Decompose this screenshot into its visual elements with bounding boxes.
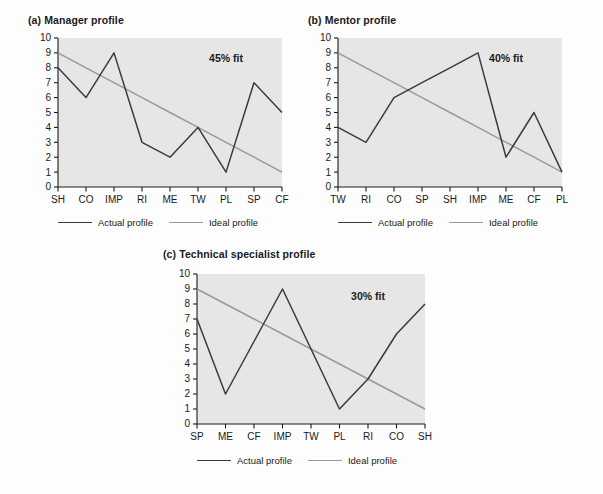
y-tick-label: 2 [325, 152, 331, 163]
legend-label-actual: Actual profile [237, 456, 292, 466]
chart-panel-c: (c) Technical specialist profile 0123456… [163, 248, 438, 448]
legend-line-actual-icon [338, 222, 372, 223]
chart-legend-c: Actual profile Ideal profile [197, 456, 397, 466]
x-tick-label: TW [303, 431, 319, 442]
x-tick-label: PL [333, 431, 346, 442]
y-tick-label: 10 [320, 32, 332, 43]
legend-entry-ideal-c: Ideal profile [308, 456, 397, 466]
x-tick-label: SP [415, 194, 429, 205]
chart-panel-a: (a) Manager profile 012345678910SHCOIMPR… [28, 14, 293, 210]
y-tick-label: 5 [45, 107, 51, 118]
x-tick-label: ME [163, 194, 178, 205]
x-tick-label: RI [361, 194, 371, 205]
x-tick-label: TW [190, 194, 206, 205]
y-tick-label: 3 [45, 137, 51, 148]
x-tick-label: CO [79, 194, 94, 205]
y-tick-label: 1 [325, 167, 331, 178]
y-tick-label: 6 [184, 328, 190, 339]
chart-title-c: (c) Technical specialist profile [163, 248, 438, 260]
legend-line-ideal-icon [169, 222, 203, 223]
x-tick-label: RI [363, 431, 373, 442]
legend-entry-actual-c: Actual profile [197, 456, 292, 466]
x-tick-label: PL [220, 194, 233, 205]
figure-canvas: (a) Manager profile 012345678910SHCOIMPR… [0, 0, 603, 494]
x-tick-label: IMP [105, 194, 123, 205]
y-tick-label: 0 [325, 181, 331, 192]
y-tick-label: 9 [184, 283, 190, 294]
x-tick-label: CF [527, 194, 540, 205]
y-tick-label: 10 [179, 268, 191, 279]
x-tick-label: PL [556, 194, 569, 205]
chart-svg-c: 012345678910SPMECFIMPTWPLRICOSH30% fit [163, 266, 435, 448]
chart-legend-b: Actual profile Ideal profile [338, 218, 538, 228]
legend-label-actual: Actual profile [98, 218, 153, 228]
legend-label-ideal: Ideal profile [209, 218, 258, 228]
chart-legend-a: Actual profile Ideal profile [58, 218, 258, 228]
chart-svg-b: 012345678910TWRICOSPSHIMPMECFPL40% fit [308, 32, 570, 210]
legend-line-actual-icon [58, 222, 92, 223]
x-tick-label: CO [387, 194, 402, 205]
y-tick-label: 4 [325, 122, 331, 133]
y-tick-label: 1 [184, 403, 190, 414]
chart-svg-a: 012345678910SHCOIMPRIMETWPLSPCF45% fit [28, 32, 290, 210]
x-tick-label: SP [247, 194, 261, 205]
chart-title-a: (a) Manager profile [28, 14, 293, 26]
y-tick-label: 5 [325, 107, 331, 118]
x-tick-label: SP [190, 431, 204, 442]
y-tick-label: 5 [184, 343, 190, 354]
plot-area-b: 012345678910TWRICOSPSHIMPMECFPL40% fit [308, 32, 573, 210]
y-tick-label: 0 [184, 418, 190, 429]
x-tick-label: IMP [469, 194, 487, 205]
y-tick-label: 8 [325, 62, 331, 73]
y-tick-label: 7 [45, 77, 51, 88]
y-tick-label: 3 [184, 373, 190, 384]
y-tick-label: 2 [45, 152, 51, 163]
x-tick-label: CO [389, 431, 404, 442]
fit-annotation: 40% fit [489, 52, 523, 64]
x-tick-label: SH [418, 431, 432, 442]
x-tick-label: SH [51, 194, 65, 205]
y-tick-label: 6 [45, 92, 51, 103]
legend-entry-ideal-b: Ideal profile [449, 218, 538, 228]
chart-title-b: (b) Mentor profile [308, 14, 573, 26]
y-tick-label: 9 [45, 47, 51, 58]
y-tick-label: 9 [325, 47, 331, 58]
y-tick-label: 4 [184, 358, 190, 369]
x-tick-label: ME [218, 431, 233, 442]
legend-line-ideal-icon [308, 460, 342, 461]
x-tick-label: RI [137, 194, 147, 205]
legend-entry-ideal-a: Ideal profile [169, 218, 258, 228]
x-tick-label: IMP [274, 431, 292, 442]
fit-annotation: 45% fit [209, 52, 243, 64]
legend-entry-actual-a: Actual profile [58, 218, 153, 228]
y-tick-label: 7 [184, 313, 190, 324]
x-tick-label: SH [443, 194, 457, 205]
y-tick-label: 4 [45, 122, 51, 133]
x-tick-label: TW [330, 194, 346, 205]
y-tick-label: 1 [45, 167, 51, 178]
x-tick-label: CF [275, 194, 288, 205]
y-tick-label: 6 [325, 92, 331, 103]
legend-label-actual: Actual profile [378, 218, 433, 228]
chart-panel-b: (b) Mentor profile 012345678910TWRICOSPS… [308, 14, 573, 210]
plot-area-c: 012345678910SPMECFIMPTWPLRICOSH30% fit [163, 266, 438, 448]
y-tick-label: 8 [45, 62, 51, 73]
x-tick-label: CF [247, 431, 260, 442]
plot-area-a: 012345678910SHCOIMPRIMETWPLSPCF45% fit [28, 32, 293, 210]
legend-line-actual-icon [197, 460, 231, 461]
fit-annotation: 30% fit [351, 290, 385, 302]
legend-label-ideal: Ideal profile [348, 456, 397, 466]
y-tick-label: 8 [184, 298, 190, 309]
legend-label-ideal: Ideal profile [489, 218, 538, 228]
y-tick-label: 3 [325, 137, 331, 148]
legend-entry-actual-b: Actual profile [338, 218, 433, 228]
y-tick-label: 10 [40, 32, 52, 43]
y-tick-label: 7 [325, 77, 331, 88]
y-tick-label: 2 [184, 388, 190, 399]
x-tick-label: ME [499, 194, 514, 205]
legend-line-ideal-icon [449, 222, 483, 223]
y-tick-label: 0 [45, 181, 51, 192]
